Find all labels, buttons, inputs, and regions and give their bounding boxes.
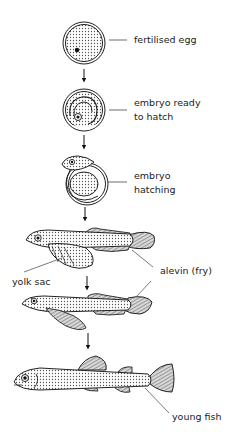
alevin-with-yolk-sac xyxy=(24,228,155,272)
label-embryo-hatching-line2: hatching xyxy=(134,183,176,196)
label-embryo-hatching-line1: embryo xyxy=(134,169,170,182)
embryo-ready-to-hatch xyxy=(63,89,127,131)
label-fertilised-egg: fertilised egg xyxy=(134,33,197,46)
label-embryo-ready-line1: embryo ready xyxy=(134,96,201,109)
label-yolk-sac: yolk sac xyxy=(12,275,51,288)
fertilised-egg xyxy=(63,22,127,64)
label-embryo-ready-line2: to hatch xyxy=(134,110,173,123)
label-alevin-fry: alevin (fry) xyxy=(160,264,212,277)
alevin-fry xyxy=(22,281,152,330)
fish-life-cycle-diagram xyxy=(0,0,231,438)
label-young-fish: young fish xyxy=(172,410,221,423)
embryo-hatching xyxy=(62,156,127,205)
young-fish xyxy=(14,356,174,413)
